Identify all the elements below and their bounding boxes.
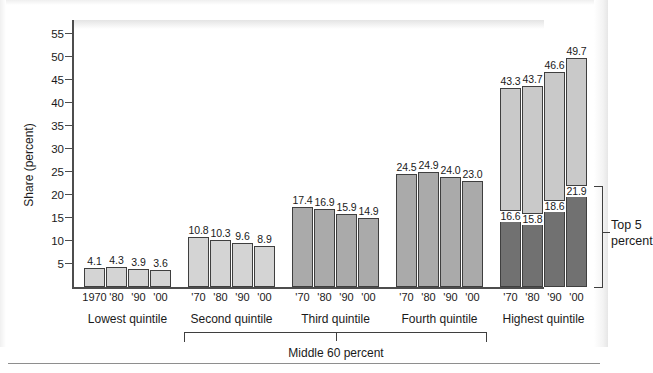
bar-value-label: 3.9 (131, 257, 145, 268)
bar-value-label: 10.8 (188, 225, 208, 236)
y-axis-title-text: Share (percent) (22, 123, 36, 206)
y-axis-tick (65, 263, 73, 264)
y-axis-tick (65, 217, 73, 218)
bracket-left-tick (184, 332, 185, 342)
bar-value-label: 15.9 (336, 202, 356, 213)
bar[interactable]: 23.0 (462, 181, 483, 287)
x-axis-group-label: Lowest quintile (88, 312, 167, 327)
bar-value-label: 49.7 (566, 46, 586, 57)
y-axis-tick-label: 40 (51, 97, 64, 109)
y-axis-tick-label: 45 (51, 74, 64, 86)
page-edge-right (594, 0, 608, 347)
bar-value-label: 23.0 (462, 169, 482, 180)
bar-segment-value-label: 18.6 (543, 201, 565, 212)
bar[interactable]: 9.6 (232, 243, 253, 287)
y-axis-tick (65, 79, 73, 80)
bar-value-label: 17.4 (292, 195, 312, 206)
y-axis-tick-label: 50 (51, 51, 64, 63)
bar[interactable]: 24.0 (440, 177, 461, 287)
bracket-bottom-tick (594, 287, 603, 288)
x-axis-year-label: 1970 (82, 291, 106, 304)
y-axis-tick-label: 55 (51, 28, 64, 40)
x-axis-year-label: '70 (191, 291, 205, 304)
bar[interactable]: 21.949.7 (566, 58, 587, 287)
bar[interactable]: 24.5 (396, 174, 417, 287)
bar-segment-value-label: 21.9 (565, 186, 587, 197)
top-5-label: Top 5 percent (611, 217, 653, 249)
bar[interactable]: 3.6 (150, 270, 171, 287)
bar[interactable]: 16.9 (314, 209, 335, 287)
y-axis-tick-label: 5 (58, 258, 64, 270)
y-axis-tick-label: 25 (51, 166, 64, 178)
bar-segment-top5[interactable] (545, 200, 564, 286)
bar[interactable]: 15.843.7 (522, 86, 543, 287)
y-axis-tick (65, 148, 73, 149)
middle-60-label: Middle 60 percent (288, 346, 383, 360)
x-axis-group-labels: Lowest quintileSecond quintileThird quin… (0, 312, 608, 330)
bar[interactable]: 8.9 (254, 246, 275, 287)
x-axis-group-label: Third quintile (301, 312, 370, 327)
x-axis-year-label: '90 (235, 291, 249, 304)
x-axis-group-label: Fourth quintile (401, 312, 477, 327)
top-5-label-line2: percent (611, 234, 653, 248)
y-axis-tick (65, 56, 73, 57)
y-axis-title: Share (percent) (22, 95, 36, 235)
y-axis-tick (65, 171, 73, 172)
x-axis-year-label: '00 (465, 291, 479, 304)
x-axis-year-label: '00 (569, 291, 583, 304)
bar[interactable]: 4.1 (84, 268, 105, 287)
top-5-label-line1: Top 5 (611, 218, 642, 232)
y-axis-tick (65, 240, 73, 241)
plot-area: 4.14.33.93.610.810.39.68.917.416.915.914… (74, 20, 544, 287)
x-axis-year-label: '90 (443, 291, 457, 304)
bar[interactable]: 3.9 (128, 269, 149, 287)
page-edge-top (0, 0, 608, 5)
page-edge-left (0, 0, 6, 347)
bar[interactable]: 4.3 (106, 267, 127, 287)
x-axis-line (72, 287, 544, 289)
bar-value-label: 4.1 (87, 256, 101, 267)
bar-value-label: 24.5 (396, 162, 416, 173)
bar-value-label: 24.9 (418, 160, 438, 171)
bar[interactable]: 10.3 (210, 240, 231, 287)
x-axis-year-label: '70 (503, 291, 517, 304)
bar-value-label: 4.3 (109, 255, 123, 266)
x-axis-year-label: '80 (317, 291, 331, 304)
x-axis-year-label: '70 (399, 291, 413, 304)
x-axis-group-label: Highest quintile (502, 312, 584, 327)
figure-bottom-rule (8, 363, 600, 364)
y-axis-tick-label: 30 (51, 143, 64, 155)
y-axis-tick-label: 10 (51, 235, 64, 247)
bar[interactable]: 10.8 (188, 237, 209, 287)
bar[interactable]: 24.9 (418, 172, 439, 287)
top-5-bracket (592, 182, 604, 291)
x-axis-group-label: Second quintile (190, 312, 272, 327)
y-axis-tick (65, 102, 73, 103)
bar-value-label: 3.6 (153, 258, 167, 269)
bar-segment-value-label: 16.6 (499, 211, 521, 222)
x-axis-year-label: '70 (295, 291, 309, 304)
y-axis-tick-label: 20 (51, 189, 64, 201)
bar[interactable]: 15.9 (336, 214, 357, 287)
bar-segment-value-label: 15.8 (521, 214, 543, 225)
bar[interactable]: 18.646.6 (544, 72, 565, 287)
bracket-vertical (602, 186, 603, 287)
x-axis-year-label: '80 (525, 291, 539, 304)
x-axis-year-label: '00 (153, 291, 167, 304)
y-axis-tick (65, 33, 73, 34)
bracket-stem (336, 332, 337, 341)
bar-value-label: 16.9 (314, 197, 334, 208)
x-axis-year-labels: 1970'80'90'00'70'80'90'00'70'80'90'00'70… (74, 291, 544, 307)
y-axis-tick (65, 125, 73, 126)
bracket-right-tick (486, 332, 487, 342)
bar-segment-top5[interactable] (567, 185, 586, 286)
bar[interactable]: 16.643.3 (500, 88, 521, 287)
bar[interactable]: 17.4 (292, 207, 313, 287)
bar-value-label: 24.0 (440, 165, 460, 176)
x-axis-year-label: '80 (109, 291, 123, 304)
x-axis-year-label: '90 (131, 291, 145, 304)
x-axis-year-label: '80 (421, 291, 435, 304)
bar[interactable]: 14.9 (358, 218, 379, 287)
x-axis-year-label: '90 (547, 291, 561, 304)
